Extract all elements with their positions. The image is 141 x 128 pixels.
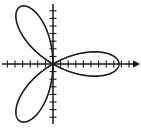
polar-rose-plot (0, 0, 141, 128)
polar-rose-figure (0, 0, 141, 128)
